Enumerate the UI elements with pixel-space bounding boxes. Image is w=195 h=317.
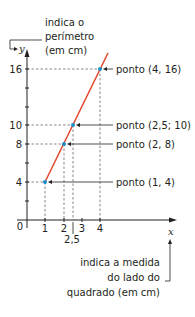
y-axis-label: y bbox=[18, 43, 25, 54]
point-2-8 bbox=[62, 142, 66, 146]
point-label: ponto (1, 4) bbox=[116, 177, 175, 188]
y-tick-label: 10 bbox=[9, 120, 22, 131]
x-tick-label: 4 bbox=[97, 223, 103, 234]
x-axis-label: x bbox=[168, 226, 174, 237]
point-label: ponto (2,5; 10) bbox=[116, 120, 191, 131]
point-4-16 bbox=[98, 67, 102, 71]
y-annotation-arrow-icon bbox=[14, 47, 18, 51]
origin-label: 0 bbox=[17, 221, 23, 232]
y-tick-label: 16 bbox=[9, 64, 22, 75]
leader-arrowheads bbox=[48, 67, 107, 184]
y-tick-label: 8 bbox=[16, 139, 22, 150]
x-annotation-arrow-icon bbox=[168, 239, 172, 244]
x-tick-label: 2,5 bbox=[64, 234, 80, 245]
x-annotation-line: indica a medida bbox=[80, 257, 160, 268]
y-axis-arrow-icon bbox=[25, 49, 30, 57]
point-1-4 bbox=[43, 180, 47, 184]
x-tick-label: 3 bbox=[79, 223, 85, 234]
y-annotation-line: indica o bbox=[45, 17, 84, 28]
y-tick-label: 4 bbox=[16, 177, 22, 188]
x-tick-label: 1 bbox=[42, 223, 48, 234]
point-2-5-10 bbox=[71, 123, 75, 127]
point-label: ponto (2, 8) bbox=[116, 139, 175, 150]
chart: 4 8 10 16 0 1 2 2,5 3 4 y x indica o per… bbox=[0, 0, 195, 317]
point-label: ponto (4, 16) bbox=[116, 64, 181, 75]
x-tick-label: 2 bbox=[61, 223, 67, 234]
x-axis-arrow-icon bbox=[169, 218, 177, 223]
y-annotation-line: perímetro bbox=[45, 31, 94, 42]
x-annotation-line: quadrado (em cm) bbox=[67, 287, 160, 298]
x-annotation-leader bbox=[165, 243, 170, 281]
y-annotation-line: (em cm) bbox=[45, 45, 87, 56]
point-leaders bbox=[50, 69, 113, 182]
series-line bbox=[45, 53, 108, 182]
x-annotation-line: do lado do bbox=[107, 272, 160, 283]
